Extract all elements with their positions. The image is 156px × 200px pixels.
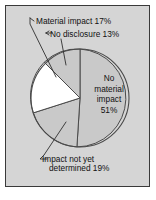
pie-label-impact-not-yet-determined-line2: determined 19%	[49, 164, 109, 173]
pie-label-material-impact: Material impact 17%	[36, 17, 111, 26]
pie-label-no-material-impact-line3: impact	[89, 94, 129, 105]
pie-label-no-material-impact: No material impact 51%	[89, 73, 129, 115]
pie-label-no-material-impact-line4: 51%	[89, 105, 129, 116]
pie-label-impact-not-yet-determined: Impact not yet determined 19%	[42, 155, 109, 172]
pie-label-no-disclosure: No disclosure 13%	[50, 30, 119, 39]
pie-label-no-material-impact-line1: No	[89, 73, 129, 84]
pie-label-no-material-impact-line2: material	[89, 84, 129, 95]
chart-figure: Material impact 17% No disclosure 13% No…	[0, 0, 156, 200]
